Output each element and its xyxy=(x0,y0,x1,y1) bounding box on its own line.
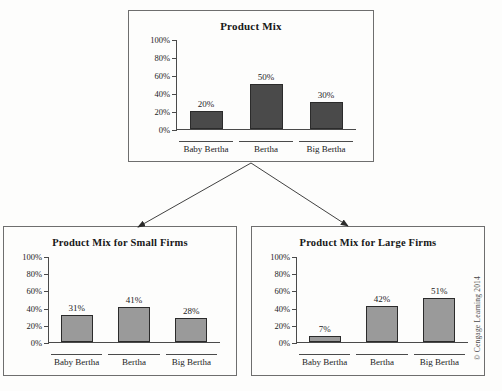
chart-title-large-firms: Product Mix for Large Firms xyxy=(252,237,484,248)
y-axis-tick xyxy=(292,274,297,275)
y-axis-tick xyxy=(292,343,297,344)
y-axis-tick xyxy=(44,343,49,344)
y-axis-tick-label: 100% xyxy=(150,35,170,45)
y-axis-tick xyxy=(292,309,297,310)
bar xyxy=(175,318,207,342)
chart-panel-small-firms: Product Mix for Small Firms 0%20%40%60%8… xyxy=(3,226,237,376)
y-axis-tick-label: 0% xyxy=(31,338,42,348)
bar-value-label: 28% xyxy=(183,306,200,316)
y-axis-tick-label: 20% xyxy=(26,321,42,331)
category-label: Bertha xyxy=(370,357,394,367)
y-axis-tick xyxy=(292,257,297,258)
bar xyxy=(423,298,455,342)
category-axis-segment xyxy=(179,141,233,142)
y-axis-tick-label: 20% xyxy=(274,321,290,331)
category-label: Baby Bertha xyxy=(302,357,347,367)
y-axis-tick xyxy=(172,76,177,77)
y-axis-tick xyxy=(44,257,49,258)
bar-value-label: 51% xyxy=(431,286,448,296)
category-axis-segment xyxy=(299,354,350,355)
y-axis-tick xyxy=(44,274,49,275)
chart-title-product-mix: Product Mix xyxy=(129,20,373,32)
figure-page: Product Mix 0%20%40%60%80%100%20%Baby Be… xyxy=(0,0,502,391)
bar xyxy=(309,336,341,342)
bar xyxy=(310,102,343,129)
y-axis-tick-label: 60% xyxy=(154,71,170,81)
x-axis-baseline xyxy=(48,342,220,343)
y-axis-tick-label: 40% xyxy=(26,304,42,314)
category-axis-segment xyxy=(239,141,293,142)
y-axis-tick-label: 100% xyxy=(22,252,42,262)
y-axis-line xyxy=(48,257,49,343)
bar-value-label: 30% xyxy=(318,90,335,100)
category-label: Big Bertha xyxy=(306,144,345,154)
bar xyxy=(118,307,150,342)
bar-value-label: 31% xyxy=(68,303,85,313)
category-label: Baby Bertha xyxy=(183,144,228,154)
category-axis-segment xyxy=(414,354,465,355)
y-axis-tick-label: 60% xyxy=(274,286,290,296)
y-axis-tick xyxy=(292,326,297,327)
y-axis-tick xyxy=(172,112,177,113)
category-axis-segment xyxy=(108,354,159,355)
category-label: Bertha xyxy=(122,357,146,367)
category-label: Big Bertha xyxy=(172,357,211,367)
y-axis-tick-label: 20% xyxy=(154,107,170,117)
y-axis-tick-label: 40% xyxy=(274,304,290,314)
chart-panel-large-firms: Product Mix for Large Firms 0%20%40%60%8… xyxy=(251,226,485,376)
x-axis-baseline xyxy=(176,129,356,130)
copyright-notice: © Cengage Learning 2014 xyxy=(473,276,482,360)
bar xyxy=(250,84,283,129)
bar xyxy=(366,306,398,342)
category-label: Bertha xyxy=(254,144,278,154)
y-axis-tick-label: 100% xyxy=(270,252,290,262)
y-axis-line xyxy=(176,40,177,130)
category-axis-segment xyxy=(299,141,353,142)
y-axis-tick-label: 60% xyxy=(26,286,42,296)
y-axis-tick xyxy=(172,130,177,131)
plot-area-product-mix: 0%20%40%60%80%100%20%Baby Bertha50%Berth… xyxy=(176,40,356,130)
y-axis-tick xyxy=(172,40,177,41)
y-axis-tick xyxy=(44,326,49,327)
chart-panel-product-mix: Product Mix 0%20%40%60%80%100%20%Baby Be… xyxy=(128,10,374,162)
bar-value-label: 50% xyxy=(258,72,275,82)
bar xyxy=(61,315,93,342)
bar-value-label: 42% xyxy=(374,294,391,304)
y-axis-tick xyxy=(44,309,49,310)
arrow-to-small-firms xyxy=(138,163,251,227)
x-axis-baseline xyxy=(296,342,468,343)
y-axis-tick-label: 80% xyxy=(26,269,42,279)
category-axis-segment xyxy=(166,354,217,355)
plot-area-large-firms: 0%20%40%60%80%100%7%Baby Bertha42%Bertha… xyxy=(296,257,468,343)
bar-value-label: 7% xyxy=(319,324,331,334)
y-axis-tick xyxy=(172,94,177,95)
y-axis-tick xyxy=(292,291,297,292)
y-axis-tick-label: 40% xyxy=(154,89,170,99)
y-axis-tick-label: 80% xyxy=(274,269,290,279)
bar-value-label: 41% xyxy=(126,295,143,305)
category-label: Baby Bertha xyxy=(54,357,99,367)
category-axis-segment xyxy=(356,354,407,355)
y-axis-line xyxy=(296,257,297,343)
y-axis-tick-label: 0% xyxy=(279,338,290,348)
plot-area-small-firms: 0%20%40%60%80%100%31%Baby Bertha41%Berth… xyxy=(48,257,220,343)
y-axis-tick-label: 0% xyxy=(159,125,170,135)
y-axis-tick-label: 80% xyxy=(154,53,170,63)
category-axis-segment xyxy=(51,354,102,355)
arrow-to-large-firms xyxy=(251,163,348,226)
bar-value-label: 20% xyxy=(198,99,215,109)
chart-title-small-firms: Product Mix for Small Firms xyxy=(4,237,236,248)
y-axis-tick xyxy=(44,291,49,292)
y-axis-tick xyxy=(172,58,177,59)
bar xyxy=(190,111,223,129)
category-label: Big Bertha xyxy=(420,357,459,367)
